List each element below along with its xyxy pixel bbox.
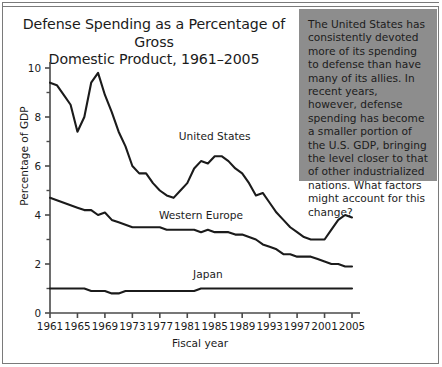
y-tick-label: 8	[34, 111, 41, 123]
x-tick-label: 1969	[92, 320, 118, 332]
x-tick-label: 1985	[202, 320, 228, 332]
series-labels-group: United StatesWestern EuropeJapan	[159, 130, 251, 279]
x-tick-label: 1965	[64, 320, 90, 332]
series-line-japan	[50, 289, 352, 294]
x-tick-label: 2005	[339, 320, 365, 332]
x-tick-label: 1997	[284, 320, 310, 332]
y-axis-title: Percentage of GDP	[18, 96, 30, 216]
series-label-united-states: United States	[179, 130, 251, 142]
series-label-western-europe: Western Europe	[159, 209, 243, 221]
x-tick-label: 1993	[256, 320, 282, 332]
line-chart-svg: 0246810196119651969197319771981198519891…	[0, 0, 442, 367]
x-tick-label: 1989	[229, 320, 255, 332]
series-line-western-europe	[50, 198, 352, 267]
series-label-japan: Japan	[192, 268, 223, 280]
chart-page: Defense Spending as a Percentage of Gros…	[0, 0, 442, 367]
y-tick-label: 0	[34, 307, 41, 319]
data-series-group	[50, 73, 352, 294]
x-tick-label: 1977	[147, 320, 173, 332]
x-tick-label: 2001	[311, 320, 337, 332]
x-tick-label: 1981	[174, 320, 200, 332]
y-tick-label: 2	[34, 258, 41, 270]
plot-area: 0246810196119651969197319771981198519891…	[0, 0, 442, 367]
tick-labels-group: 0246810196119651969197319771981198519891…	[28, 62, 365, 332]
y-tick-label: 10	[28, 62, 41, 74]
x-axis-title: Fiscal year	[120, 337, 280, 349]
x-tick-label: 1973	[119, 320, 145, 332]
y-tick-label: 6	[34, 160, 41, 172]
x-tick-label: 1961	[37, 320, 63, 332]
tick-marks-group	[45, 68, 352, 318]
y-tick-label: 4	[34, 209, 41, 221]
